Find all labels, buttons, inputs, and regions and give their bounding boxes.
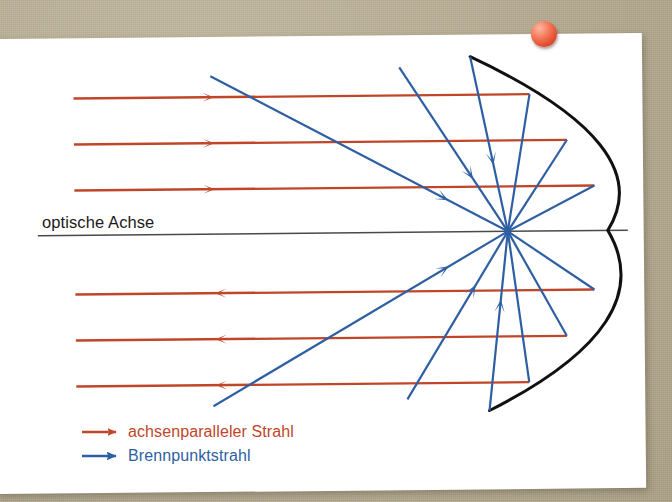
optics-diagram-svg (0, 0, 672, 502)
focal-ray-lower-mirror-ray-3 (508, 231, 529, 382)
legend-arrows-group (82, 432, 116, 456)
focal-ray-lower-mirror-ray-4 (508, 231, 567, 337)
focal-ray-upper-mirror-ray-5 (507, 186, 594, 232)
parallel-ray-3 (74, 186, 594, 191)
optical-axis-label: optische Achse (42, 213, 154, 232)
parallel-ray-5 (76, 336, 567, 341)
legend-label-parallel-ray: achsenparalleler Strahl (128, 423, 294, 441)
focal-ray-lower-mirror-ray-5 (508, 231, 595, 291)
focal-ray-upper-mirror-ray-3 (507, 94, 531, 231)
focal-ray-arrowhead-lower-mirror-ray-2 (464, 285, 475, 299)
legend-label-focal-ray: Brennpunktstrahl (128, 447, 251, 465)
cork-board-background: optische Achse achsenparalleler Strahl B… (0, 0, 672, 502)
focal-ray-lower-long-diagonal (212, 231, 510, 406)
focal-point-marker (504, 228, 511, 235)
diagram-canvas: optische Achse achsenparalleler Strahl B… (0, 0, 672, 502)
parallel-ray-6 (76, 382, 529, 386)
parallel-ray-1 (74, 94, 530, 98)
focal-ray-arrowhead-lower-long-diagonal (435, 266, 449, 277)
parallel-rays-group (73, 89, 596, 391)
focal-ray-upper-mirror-ray-1 (470, 56, 508, 231)
pushpin-icon (531, 21, 557, 47)
concave-mirror-arc (470, 55, 622, 410)
parallel-ray-2 (74, 140, 567, 145)
focal-ray-upper-mirror-ray-2 (399, 66, 508, 232)
